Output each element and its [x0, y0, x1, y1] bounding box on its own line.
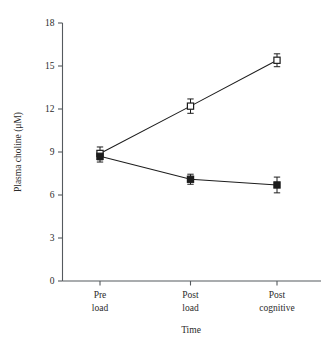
data-point-open-square: [274, 57, 280, 63]
y-tick-label: 12: [45, 104, 55, 114]
x-axis-category-labels: PreloadPostloadPostcognitive: [92, 290, 295, 313]
x-category-label: Post: [269, 290, 286, 300]
x-category-label: Post: [182, 290, 199, 300]
data-point-filled-square: [97, 153, 103, 159]
chart-figure: 0369121518 PreloadPostloadPostcognitive …: [0, 0, 332, 348]
x-axis-title: Time: [181, 325, 201, 335]
data-point-filled-square: [187, 176, 193, 182]
x-axis-ticks: [100, 281, 277, 286]
y-axis-ticks: 0369121518: [45, 18, 63, 286]
x-category-label: Pre: [94, 290, 107, 300]
y-tick-label: 6: [50, 190, 55, 200]
y-axis-title: Plasma choline (μM): [13, 112, 24, 192]
data-point-filled-square: [274, 182, 280, 188]
y-tick-label: 15: [45, 61, 55, 71]
plasma-choline-line-chart: 0369121518 PreloadPostloadPostcognitive …: [0, 0, 332, 348]
y-tick-label: 3: [50, 233, 55, 243]
x-category-label: cognitive: [259, 303, 294, 313]
y-tick-label: 9: [50, 147, 55, 157]
x-category-label: load: [92, 303, 109, 313]
chart-series-group: [97, 54, 280, 193]
x-category-label: load: [182, 303, 199, 313]
y-tick-label: 18: [45, 18, 55, 28]
y-tick-label: 0: [50, 276, 55, 286]
data-point-open-square: [187, 103, 193, 109]
